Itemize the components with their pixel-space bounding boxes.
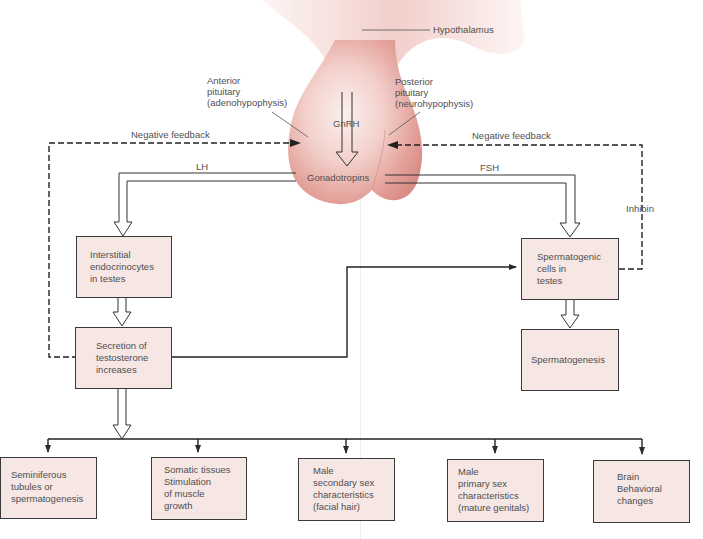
gonadotropins-label: Gonadotropins bbox=[307, 172, 369, 183]
anterior-pituitary-label: Anterior pituitary (adenohypophysis) bbox=[207, 75, 287, 108]
interstitial-endocrinocytes-box: Interstitial endocrinocytes in testes bbox=[76, 236, 172, 298]
target-primary-sex-text: Male primary sex characteristics (mature… bbox=[458, 466, 529, 514]
spermatogenesis-text: Spermatogenesis bbox=[531, 354, 605, 366]
lh-arrow bbox=[114, 173, 296, 236]
testosterone-to-effects-arrow bbox=[113, 388, 131, 439]
target-somatic-box: Somatic tissues Stimulation of muscle gr… bbox=[151, 457, 247, 520]
spermatogenic-cells-box: Spermatogenic cells in testes bbox=[521, 238, 619, 300]
target-seminiferous-text: Seminiferous tubules or spermatogenesis bbox=[11, 469, 83, 505]
fsh-label: FSH bbox=[480, 162, 499, 173]
testosterone-secretion-box: Secretion of testosterone increases bbox=[75, 327, 172, 389]
spermatogenic-to-spermatogenesis-arrow bbox=[561, 300, 579, 328]
target-brain-text: Brain Behavioral changes bbox=[617, 471, 662, 507]
testosterone-secretion-text: Secretion of testosterone increases bbox=[96, 340, 148, 376]
negative-feedback-right-label: Negative feedback bbox=[472, 130, 551, 141]
spermatogenesis-box: Spermatogenesis bbox=[521, 329, 619, 391]
target-secondary-sex-box: Male secondary sex characteristics (faci… bbox=[298, 458, 395, 521]
target-secondary-sex-text: Male secondary sex characteristics (faci… bbox=[313, 465, 374, 513]
posterior-pituitary-label: Posterior pituitary (neurohypophysis) bbox=[395, 76, 473, 109]
target-seminiferous-box: Seminiferous tubules or spermatogenesis bbox=[0, 457, 97, 519]
interstitial-to-testosterone-arrow bbox=[113, 297, 131, 326]
testosterone-to-spermatogenic-line bbox=[171, 267, 516, 357]
box-shadow bbox=[530, 338, 627, 399]
hypothalamus-label: Hypothalamus bbox=[433, 24, 494, 35]
interstitial-endocrinocytes-text: Interstitial endocrinocytes in testes bbox=[90, 249, 154, 285]
target-brain-box: Brain Behavioral changes bbox=[593, 460, 690, 523]
lh-label: LH bbox=[196, 161, 208, 172]
negative-feedback-left-label: Negative feedback bbox=[131, 129, 210, 140]
spermatogenic-cells-text: Spermatogenic cells in testes bbox=[537, 251, 601, 287]
gnrh-label: GnRH bbox=[333, 118, 359, 129]
inhibin-label: Inhibin bbox=[626, 203, 654, 214]
target-primary-sex-box: Male primary sex characteristics (mature… bbox=[447, 459, 544, 522]
target-somatic-text: Somatic tissues Stimulation of muscle gr… bbox=[164, 464, 231, 512]
